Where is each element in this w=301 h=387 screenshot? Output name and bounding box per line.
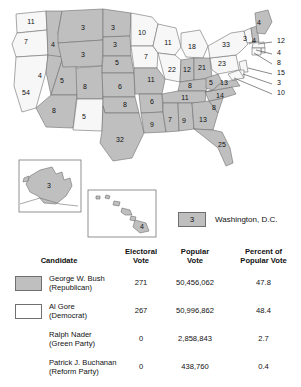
cell-electoral-vote: 0 [118,326,164,354]
state-AZ [36,95,77,128]
alaska-votes-label: 3 [47,182,51,189]
dc-swatch: 3 [178,212,206,227]
results-table-wrapper: Candidate Electoral Vote Popular Vote Pe… [0,248,301,387]
state-votes-label-MN: 10 [138,29,146,36]
table-body: George W. Bush(Republican)27150,456,0624… [0,270,301,382]
state-NM [73,99,103,131]
state-votes-label-LA: 9 [150,121,154,128]
state-votes-label-IL: 22 [168,66,176,73]
cell-candidate: Patrick J. Buchanan(Reform Party) [0,354,118,382]
cell-percent: 48.4 [226,298,301,326]
state-votes-label-WI: 11 [164,39,171,46]
state-ND [103,9,131,37]
cell-popular-vote: 438,760 [164,354,226,382]
table-row: Al Gore(Democrat)26750,996,86248.4 [0,298,301,326]
results-table: Candidate Electoral Vote Popular Vote Pe… [0,248,301,382]
state-votes-label-UT: 5 [60,77,64,84]
cell-electoral-vote: 267 [118,298,164,326]
state-votes-label-AZ: 8 [52,107,56,114]
cell-popular-vote: 50,456,062 [164,270,226,298]
electoral-map: 1175444583385335683210711691118221221811… [0,0,301,245]
candidate-color-swatch [15,276,42,291]
state-votes-label-KY: 8 [188,82,192,89]
leader-votes-label-RI: 4 [277,49,281,56]
state-votes-label-MS: 7 [168,116,172,123]
cell-candidate: Al Gore(Democrat) [0,298,118,326]
state-votes-label-IA: 7 [144,53,148,60]
leader-votes-label-NH: 4 [252,37,256,44]
state-CT [252,48,261,55]
state-votes-label-ME: 4 [257,19,261,26]
hawaii-inset: 4 [88,190,156,237]
cell-percent: 0.4 [226,354,301,382]
col-header-electoral-vote: Electoral Vote [118,248,164,270]
candidate-color-swatch [15,304,42,319]
candidate-swatch-placeholder [15,360,42,375]
state-votes-label-NY: 33 [222,41,230,48]
dc-legend: 3 Washington, D.C. [178,212,277,227]
state-votes-label-TN: 11 [181,94,188,101]
state-SD [103,36,131,56]
state-votes-label-IN: 12 [183,66,191,73]
col-header-candidate-text: Candidate [41,256,78,265]
leader-votes-label-VT: 3 [243,35,247,42]
table-header-row: Candidate Electoral Vote Popular Vote Pe… [0,248,301,270]
cell-popular-vote: 50,996,862 [164,298,226,326]
leader-votes-label-DE: 3 [277,79,281,86]
state-votes-label-CA: 54 [22,89,30,96]
cell-electoral-vote: 271 [118,270,164,298]
state-votes-label-VA: 13 [220,79,228,86]
state-votes-label-OK: 8 [123,101,127,108]
state-OR [12,30,48,57]
state-votes-label-SD: 3 [113,41,117,48]
state-votes-label-WV: 5 [209,79,213,86]
table-row: Patrick J. Buchanan(Reform Party)0438,76… [0,354,301,382]
leader-votes-label-NJ: 15 [277,69,285,76]
dc-legend-label: Washington, D.C. [215,215,277,224]
col-header-percent: Percent of Popular Vote [226,248,301,270]
state-votes-label-ID: 4 [51,41,55,48]
state-votes-label-TX: 32 [116,136,124,143]
dc-votes-label: 3 [190,215,194,224]
state-votes-label-ND: 3 [111,24,115,31]
col-header-pv-line2: Vote [187,256,203,265]
state-votes-label-OH: 21 [198,64,206,71]
candidate-party: (Democrat) [49,312,87,321]
state-votes-label-WY: 3 [81,51,85,58]
alaska-inset: 3 [19,160,81,212]
candidate-swatch-placeholder [15,332,42,347]
state-votes-label-KS: 6 [118,83,122,90]
state-votes-label-MT: 3 [81,24,85,31]
table-row: George W. Bush(Republican)27150,456,0624… [0,270,301,298]
state-CO [76,66,103,99]
cell-percent: 2.7 [226,326,301,354]
leader-votes-label-CT: 8 [277,59,281,66]
state-votes-label-CO: 8 [83,83,87,90]
cell-electoral-vote: 0 [118,354,164,382]
leader-votes-label-MA: 12 [277,37,285,44]
state-votes-label-NE: 5 [115,59,119,66]
col-header-pct-line2: Popular Vote [240,256,286,265]
state-votes-label-AR: 6 [150,98,154,105]
col-header-ev-line2: Vote [133,256,149,265]
state-votes-label-PA: 23 [218,60,226,67]
cell-candidate: Ralph Nader(Green Party) [0,326,118,354]
state-AL [178,103,194,131]
state-FL [194,129,233,166]
state-votes-label-OR: 7 [24,38,28,45]
state-votes-label-GA: 13 [199,116,207,123]
state-votes-label-FL: 25 [218,141,226,148]
state-votes-label-NM: 5 [82,113,86,120]
state-votes-label-NC: 14 [216,92,224,99]
candidate-party: (Reform Party) [49,368,117,377]
us-map-svg: 1175444583385335683210711691118221221811… [0,0,301,245]
col-header-candidate: Candidate [0,248,118,270]
candidate-party: (Republican) [49,284,105,293]
state-votes-label-MO: 11 [147,76,154,83]
state-OK [103,97,139,113]
table-head: Candidate Electoral Vote Popular Vote Pe… [0,248,301,270]
hawaii-votes-label: 4 [140,223,144,230]
col-header-popular-vote: Popular Vote [164,248,226,270]
cell-percent: 47.8 [226,270,301,298]
election-figure: 1175444583385335683210711691118221221811… [0,0,301,387]
